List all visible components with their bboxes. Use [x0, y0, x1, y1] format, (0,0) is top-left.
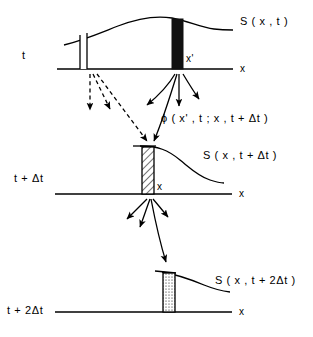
mid-arrow-2: [140, 199, 150, 227]
dotted-bar-x: [163, 273, 175, 312]
solid-transport-arrows-top: [147, 74, 199, 141]
solid-arrow-1: [147, 74, 175, 105]
point-label-x-mid: x: [157, 182, 163, 192]
open-bar-t: [80, 33, 87, 69]
figure-canvas: t S ( x , t ) x' x ϕ ( x' , t ; x , t + …: [0, 0, 313, 337]
axis-label-x-t-dt: x: [239, 189, 245, 199]
dashed-transport-arrows: [90, 74, 147, 141]
hatched-bar-x: [142, 147, 154, 194]
solid-transport-arrows-mid: [127, 199, 168, 262]
time-label-t-dt: t + Δt: [14, 173, 44, 184]
dashed-arrow-2: [93, 74, 110, 109]
mid-arrow-3: [153, 199, 168, 217]
solid-arrow-3: [183, 74, 199, 99]
curve-s-x-t: [64, 17, 233, 45]
time-label-t: t: [22, 50, 26, 61]
curve-label-s-x-t: S ( x , t ): [240, 16, 288, 27]
solid-arrow-4: [154, 74, 177, 141]
panel-t-2dt-group: [55, 271, 232, 312]
time-label-t-2dt: t + 2Δt: [7, 305, 43, 316]
diagram-vector-layer: [0, 0, 313, 337]
point-label-x-prime: x': [186, 54, 194, 64]
curve-label-s-x-t-dt: S ( x , t + Δt ): [203, 150, 277, 161]
axis-label-x-t-2dt: x: [239, 307, 245, 317]
propagator-label: ϕ ( x' , t ; x , t + Δt ): [161, 113, 268, 124]
mid-arrow-4: [151, 199, 166, 262]
axis-label-x-t: x: [240, 64, 246, 74]
filled-bar-x-prime: [172, 19, 183, 69]
dashed-arrow-3: [97, 74, 147, 141]
curve-label-s-x-t-2dt: S ( x , t + 2Δt ): [215, 275, 296, 286]
panel-t-group: [57, 17, 233, 69]
